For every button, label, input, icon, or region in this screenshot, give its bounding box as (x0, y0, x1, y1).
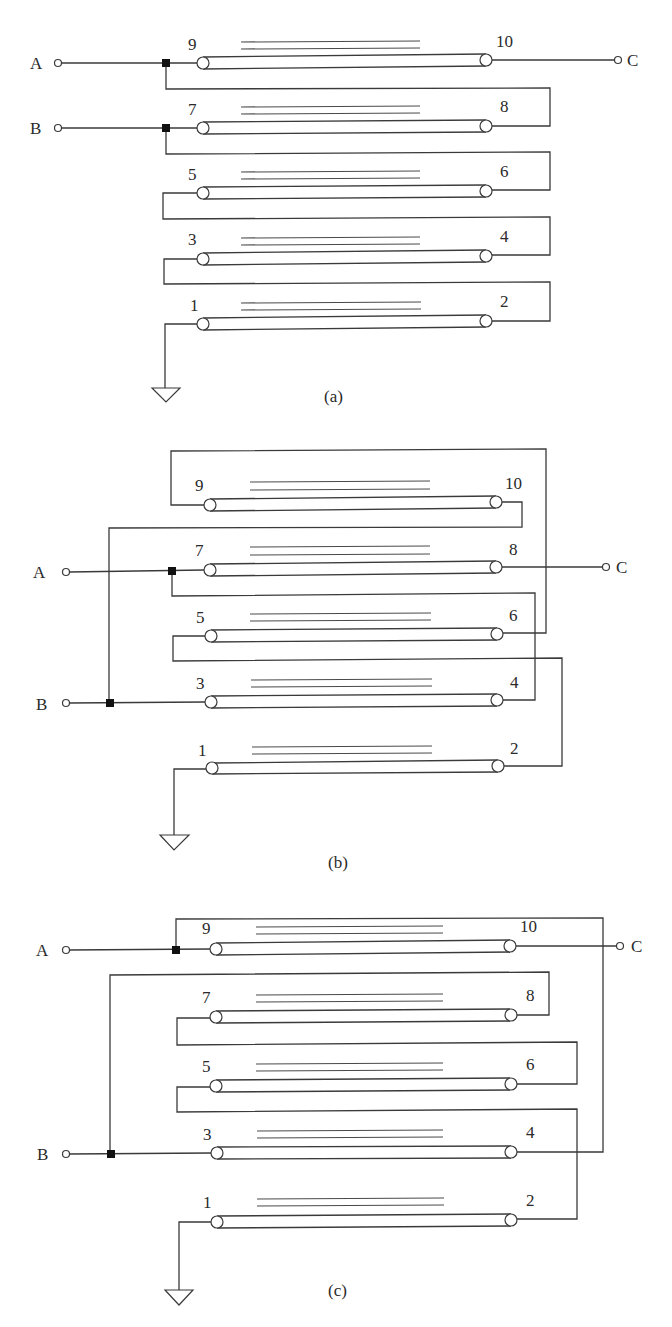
coax-line-3-4: 3 4 (196, 673, 519, 708)
coax-end-icon (197, 122, 209, 134)
pin-label: 10 (496, 32, 513, 51)
coax-end-icon (480, 315, 492, 327)
coax-line-7-8: 7 8 (188, 97, 509, 134)
ground-icon (165, 1290, 193, 1305)
pin-label: 1 (190, 296, 199, 315)
wire-pin3-to-pin2 (164, 259, 550, 321)
coax-end-icon (204, 564, 216, 576)
wire-b-to-pin3 (69, 1153, 211, 1154)
schematic-svg: A B C 9 10 7 8 (0, 0, 672, 1327)
terminal-c-label: C (616, 558, 627, 577)
junction-icon (106, 699, 114, 707)
panel-a: A B C 9 10 7 8 (30, 32, 638, 406)
terminal-b-icon (55, 125, 62, 132)
coax-end-icon (197, 187, 209, 199)
coax-end-icon (505, 1214, 517, 1226)
coax-end-icon (197, 57, 209, 69)
ground-icon (152, 388, 180, 402)
coax-end-icon (210, 943, 222, 955)
pin-label: 10 (520, 917, 537, 936)
terminal-b-icon (63, 1151, 70, 1158)
coax-end-icon (505, 1078, 517, 1090)
wire-a-to-pin7 (69, 570, 204, 572)
pin-label: 3 (196, 674, 205, 693)
terminal-b-label: B (30, 119, 41, 138)
pin-label: 4 (500, 227, 509, 246)
coax-end-icon (505, 1009, 517, 1021)
coax-end-icon (480, 250, 492, 262)
coax-end-icon (490, 561, 502, 573)
coax-line-5-6: 5 6 (196, 606, 518, 642)
panel-caption-b: (b) (328, 853, 348, 872)
coax-end-icon (204, 499, 216, 511)
terminal-a-icon (63, 947, 70, 954)
junction-icon (172, 946, 180, 954)
pin-label: 8 (526, 986, 535, 1005)
terminal-a-label: A (36, 941, 49, 960)
pin-label: 4 (510, 673, 519, 692)
coax-end-icon (492, 760, 504, 772)
pin-label: 2 (500, 292, 509, 311)
wire-a-to-pin9 (69, 949, 210, 950)
coax-end-icon (211, 1216, 223, 1228)
coax-end-icon (197, 253, 209, 265)
terminal-b-label: B (36, 695, 47, 714)
coax-end-icon (210, 1080, 222, 1092)
coax-end-icon (205, 630, 217, 642)
coax-line-3-4: 3 4 (203, 1123, 535, 1159)
figure-canvas: A B C 9 10 7 8 (0, 0, 672, 1327)
pin-label: 5 (196, 608, 205, 627)
pin-label: 3 (203, 1125, 212, 1144)
coax-end-icon (491, 628, 503, 640)
pin-label: 7 (202, 988, 211, 1007)
panel-b: A B C 9 10 7 8 (33, 449, 627, 872)
wire-a-junction-to-pin4 (172, 571, 535, 700)
panel-c: A B C 9 10 7 8 (36, 917, 642, 1305)
pin-label: 9 (195, 476, 204, 495)
wire-a-junction-to-pin8 (166, 63, 550, 126)
coax-line-9-10: 9 10 (195, 474, 522, 511)
wire-pin5-to-pin4 (163, 193, 550, 255)
terminal-a-label: A (33, 563, 46, 582)
coax-end-icon (210, 1011, 222, 1023)
pin-label: 4 (526, 1123, 535, 1142)
coax-line-7-8: 7 8 (202, 986, 535, 1023)
pin-label: 7 (188, 100, 197, 119)
wire-b-junction-to-pin6 (166, 128, 550, 190)
pin-label: 6 (509, 606, 518, 625)
pin-label: 3 (188, 230, 197, 249)
coax-end-icon (211, 1147, 223, 1159)
pin-label: 6 (526, 1055, 535, 1074)
ground-icon (160, 835, 189, 850)
terminal-a-label: A (30, 54, 43, 73)
wire-pin7-to-pin6 (177, 1018, 577, 1084)
coax-end-icon (205, 696, 217, 708)
junction-icon (107, 1150, 115, 1158)
coax-line-7-8: 7 8 (195, 540, 518, 576)
coax-end-icon (490, 496, 502, 508)
wire-pin9-loop-to-pin6 (171, 449, 546, 633)
coax-line-3-4: 3 4 (188, 227, 509, 265)
coax-end-icon (505, 1146, 517, 1158)
panel-caption-a: (a) (324, 387, 343, 406)
terminal-c-label: C (627, 51, 638, 70)
pin-label: 10 (505, 474, 522, 493)
terminal-c-icon (603, 564, 610, 571)
coax-line-9-10: 9 10 (188, 32, 513, 69)
terminal-b-label: B (37, 1145, 48, 1164)
pin-label: 6 (500, 162, 509, 181)
coax-end-icon (206, 762, 218, 774)
terminal-c-label: C (631, 937, 642, 956)
junction-icon (168, 567, 176, 575)
terminal-a-icon (55, 60, 62, 67)
pin-label: 8 (500, 97, 509, 116)
pin-label: 5 (188, 165, 197, 184)
wire-b-to-pin3 (69, 702, 205, 703)
coax-line-5-6: 5 6 (202, 1055, 535, 1092)
coax-line-1-2: 1 2 (190, 292, 509, 330)
coax-end-icon (480, 185, 492, 197)
pin-label: 5 (202, 1057, 211, 1076)
pin-label: 8 (509, 540, 518, 559)
pin-label: 7 (195, 541, 204, 560)
pin-label: 2 (526, 1191, 535, 1210)
